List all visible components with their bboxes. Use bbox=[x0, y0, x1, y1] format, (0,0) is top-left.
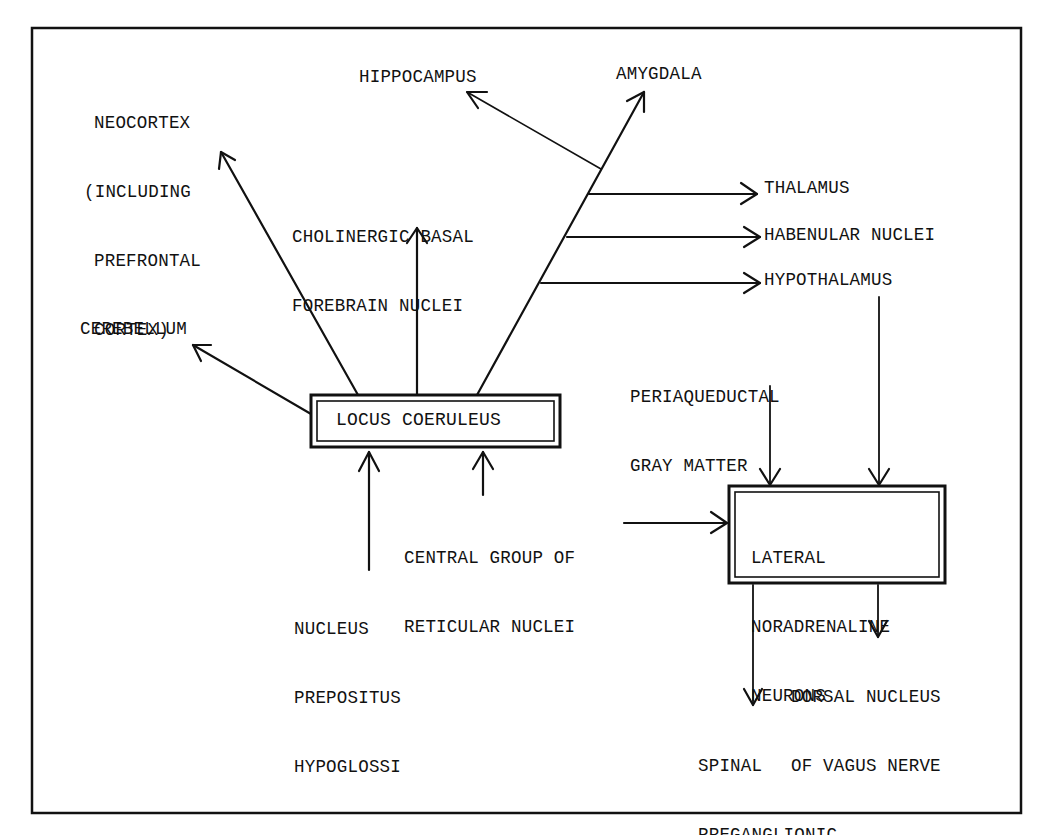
edge-lc-amygdala bbox=[477, 92, 644, 395]
edge-lc-cerebellum bbox=[193, 345, 311, 414]
label-spinal-preganglionic: SPINAL PREGANGLIONIC NEURONS bbox=[698, 709, 837, 835]
label-habenular: HABENULAR NUCLEI bbox=[764, 224, 935, 247]
edge-lc-hippocampus bbox=[467, 92, 601, 169]
label-line: CENTRAL GROUP OF bbox=[404, 547, 575, 570]
label-line: NORADRENALINE bbox=[751, 616, 890, 639]
label-line: CHOLINERGIC BASAL bbox=[292, 226, 474, 249]
label-line: FOREBRAIN NUCLEI bbox=[292, 295, 474, 318]
label-locus-coeruleus: LOCUS COERULEUS bbox=[336, 409, 501, 432]
label-thalamus: THALAMUS bbox=[764, 177, 850, 200]
label-nucleus-prepositus: NUCLEUS PREPOSITUS HYPOGLOSSI bbox=[294, 572, 401, 802]
label-line: RETICULAR NUCLEI bbox=[404, 616, 575, 639]
label-line: GRAY MATTER bbox=[630, 455, 780, 478]
label-hypothalamus: HYPOTHALAMUS bbox=[764, 269, 892, 292]
label-line: (INCLUDING bbox=[84, 181, 201, 204]
label-cerebellum: CEREBELLUM bbox=[80, 318, 187, 341]
label-line: NUCLEUS bbox=[294, 618, 401, 641]
label-hippocampus: HIPPOCAMPUS bbox=[359, 66, 477, 89]
label-line: SPINAL bbox=[698, 755, 837, 778]
label-amygdala: AMYGDALA bbox=[616, 63, 702, 86]
label-line: DORSAL NUCLEUS bbox=[791, 686, 941, 709]
label-line: PREPOSITUS bbox=[294, 687, 401, 710]
label-periaqueductal: PERIAQUEDUCTAL GRAY MATTER bbox=[630, 340, 780, 501]
label-cholinergic: CHOLINERGIC BASAL FOREBRAIN NUCLEI bbox=[292, 180, 474, 341]
label-central-reticular: CENTRAL GROUP OF RETICULAR NUCLEI bbox=[404, 501, 575, 662]
label-line: HYPOGLOSSI bbox=[294, 756, 401, 779]
label-line: LATERAL bbox=[751, 547, 890, 570]
label-line: PREFRONTAL bbox=[94, 250, 201, 273]
label-line: PREGANGLIONIC bbox=[698, 824, 837, 835]
label-line: PERIAQUEDUCTAL bbox=[630, 386, 780, 409]
label-line: NEOCORTEX bbox=[94, 112, 201, 135]
